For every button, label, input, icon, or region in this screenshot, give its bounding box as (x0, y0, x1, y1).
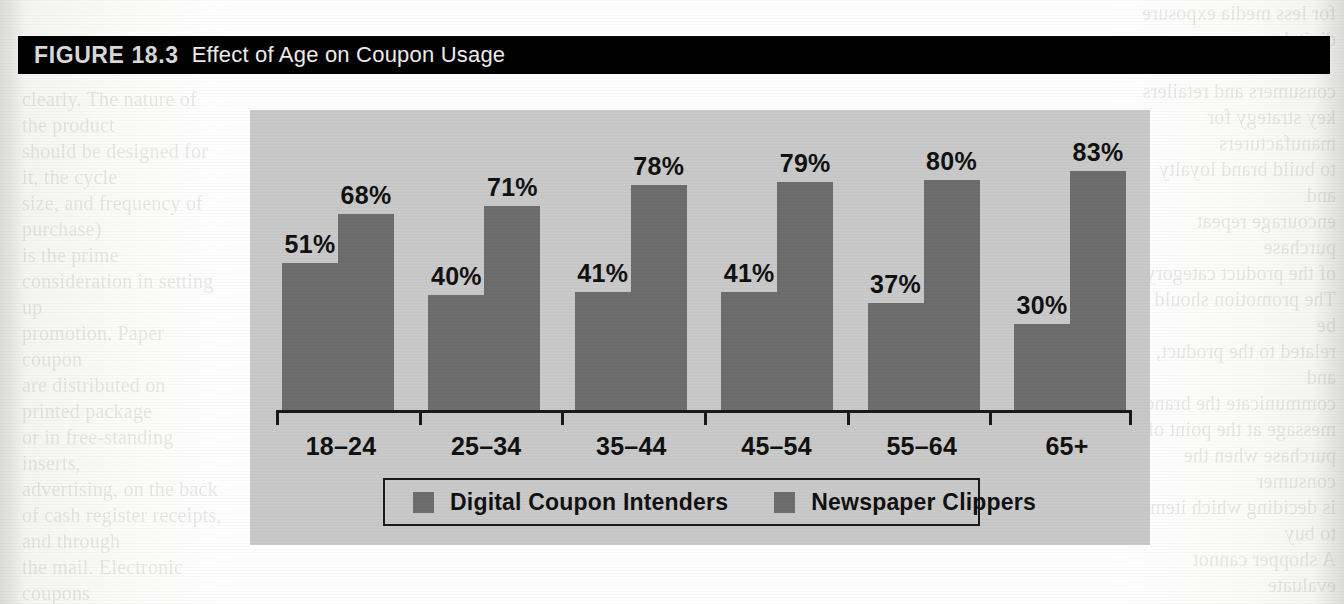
scan-shadow-right (1314, 0, 1344, 604)
x-axis-tick (561, 410, 564, 425)
bar (868, 303, 924, 410)
bar-value-label: 68% (341, 181, 392, 210)
scan-shadow-left (0, 0, 26, 604)
x-axis-tick (276, 410, 279, 425)
x-axis-label: 55–64 (863, 432, 981, 461)
x-axis-label: 65+ (1008, 432, 1126, 461)
background-text-left-column: clearly. The nature of the product shoul… (22, 86, 222, 604)
background-text-right-column: for less media exposure digital consumer… (1140, 0, 1336, 604)
x-axis-label: 18–24 (282, 432, 400, 461)
x-axis-tick (704, 410, 707, 425)
figure-title: Effect of Age on Coupon Usage (192, 42, 506, 68)
bar (721, 292, 777, 410)
x-axis-tick (847, 410, 850, 425)
bar (484, 206, 540, 410)
bar-group: 30%83% (1014, 122, 1126, 410)
bar-group: 41%79% (721, 122, 833, 410)
bar-group: 40%71% (428, 122, 540, 410)
bar-wrapper: 41% (721, 122, 777, 410)
bar-group: 37%80% (868, 122, 980, 410)
legend-label: Digital Coupon Intenders (450, 489, 728, 516)
bar-wrapper: 41% (575, 122, 631, 410)
bar-group: 51%68% (282, 122, 394, 410)
bar (428, 295, 484, 410)
bar (924, 180, 980, 410)
bar (338, 214, 394, 410)
bar (1070, 171, 1126, 410)
x-axis-label: 45–54 (718, 432, 836, 461)
bar (1014, 324, 1070, 410)
legend-entry-newspaper-clippers: Newspaper Clippers (774, 489, 1036, 516)
bar-value-label: 41% (724, 259, 775, 288)
bar-value-label: 40% (431, 262, 482, 291)
figure-number-label: FIGURE 18.3 (34, 42, 179, 69)
bar-value-label: 78% (633, 152, 684, 181)
x-axis-tick (989, 410, 992, 425)
x-axis-labels: 18–2425–3435–4445–5455–6465+ (282, 432, 1126, 461)
bar-value-label: 41% (577, 259, 628, 288)
x-axis-tick (419, 410, 422, 425)
bar-value-label: 37% (870, 270, 921, 299)
bar (777, 182, 833, 410)
bars-layer: 51%68%40%71%41%78%41%79%37%80%30%83% (282, 122, 1126, 410)
bar-wrapper: 37% (868, 122, 924, 410)
bar-value-label: 51% (285, 230, 336, 259)
bar-wrapper: 79% (777, 122, 833, 410)
bar-value-label: 30% (1016, 291, 1067, 320)
figure-container: FIGURE 18.3 Effect of Age on Coupon Usag… (18, 36, 1330, 74)
x-axis-tick (1129, 410, 1132, 425)
bar-wrapper: 83% (1070, 122, 1126, 410)
bar (575, 292, 631, 410)
legend-swatch-icon (413, 492, 434, 513)
bar-value-label: 79% (780, 149, 831, 178)
bar-wrapper: 71% (484, 122, 540, 410)
chart-legend: Digital Coupon Intenders Newspaper Clipp… (383, 478, 980, 526)
bar-value-label: 80% (926, 147, 977, 176)
chart-panel: 51%68%40%71%41%78%41%79%37%80%30%83% 18–… (250, 110, 1150, 545)
bar-wrapper: 30% (1014, 122, 1070, 410)
figure-titlebar: FIGURE 18.3 Effect of Age on Coupon Usag… (18, 36, 1330, 74)
legend-label: Newspaper Clippers (811, 489, 1036, 516)
bar (631, 185, 687, 410)
legend-swatch-icon (774, 492, 795, 513)
bar-wrapper: 40% (428, 122, 484, 410)
bar-value-label: 71% (487, 173, 538, 202)
plot-area: 51%68%40%71%41%78%41%79%37%80%30%83% (250, 110, 1150, 410)
bar (282, 263, 338, 410)
bar-wrapper: 78% (631, 122, 687, 410)
bar-wrapper: 68% (338, 122, 394, 410)
bar-value-label: 83% (1072, 138, 1123, 167)
bar-wrapper: 51% (282, 122, 338, 410)
bar-group: 41%78% (575, 122, 687, 410)
x-axis-label: 25–34 (427, 432, 545, 461)
bar-wrapper: 80% (924, 122, 980, 410)
x-axis-label: 35–44 (572, 432, 690, 461)
x-axis (276, 410, 1132, 411)
legend-entry-digital-coupon-intenders: Digital Coupon Intenders (413, 489, 728, 516)
